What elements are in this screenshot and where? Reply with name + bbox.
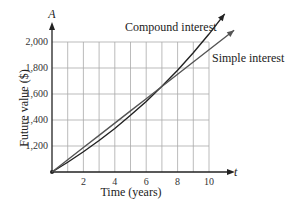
series-line: [52, 14, 225, 172]
y-axis-label: Future value ($): [17, 69, 31, 146]
x-axis-var: t: [234, 165, 238, 179]
x-tick: 8: [175, 176, 180, 187]
y-tick: 2,000: [26, 36, 49, 47]
compound-label: Compound interest: [125, 20, 217, 34]
series: [52, 14, 234, 172]
tick-labels: 2468101,2001,4001,6001,8002,000: [26, 36, 215, 187]
simple-label: Simple interest: [212, 51, 285, 65]
x-tick: 2: [81, 176, 86, 187]
series-line: [52, 30, 234, 172]
x-tick: 10: [204, 176, 214, 187]
x-axis-label: Time (years): [100, 185, 161, 199]
y-axis-var: A: [47, 7, 56, 21]
chart: 2468101,2001,4001,6001,8002,000 Future v…: [0, 0, 286, 209]
